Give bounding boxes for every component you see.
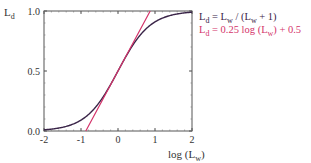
chart: -2-10120.00.51.0 Ld log (Lw) Ld = Lw / (… (0, 0, 311, 163)
axis-ticks: -2-10120.00.51.0 (28, 6, 195, 146)
x-axis-title: log (Lw) (168, 148, 205, 163)
x-tick-label: 2 (190, 134, 195, 145)
y-tick-label: 0.0 (28, 126, 41, 137)
x-tick-label: -1 (77, 134, 85, 145)
legend-entry-linear: Ld = 0.25 log (Lw) + 0.5 (199, 24, 301, 38)
y-axis-title: Ld (4, 6, 15, 21)
series-linear-line (86, 11, 150, 131)
y-tick-label: 0.5 (28, 66, 41, 77)
y-tick-label: 1.0 (28, 6, 41, 17)
x-tick-label: 1 (153, 134, 158, 145)
x-tick-label: 0 (116, 134, 121, 145)
plot-curves (44, 11, 192, 131)
x-tick-label: -2 (40, 134, 48, 145)
legend-entry-logistic: Ld = Lw / (Lw + 1) (199, 11, 277, 25)
